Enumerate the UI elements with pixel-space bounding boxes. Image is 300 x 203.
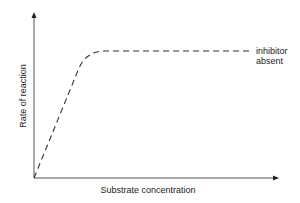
x-axis-label: Substrate concentration bbox=[100, 185, 195, 195]
curve-inhibitor-absent bbox=[34, 51, 251, 178]
y-axis-arrow-icon bbox=[32, 12, 37, 18]
curve-label-line2: absent bbox=[256, 56, 288, 66]
y-axis-label: Rate of reaction bbox=[18, 64, 28, 128]
x-axis-arrow-icon bbox=[273, 176, 279, 181]
curve-label: inhibitor absent bbox=[256, 46, 288, 66]
chart-canvas bbox=[0, 0, 300, 203]
curve-label-line1: inhibitor bbox=[256, 46, 288, 56]
